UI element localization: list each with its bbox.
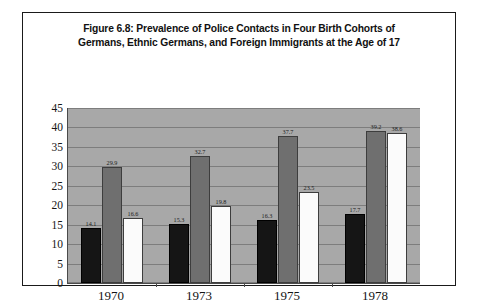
- x-axis-label-1978: 1978: [362, 288, 388, 303]
- bar-rect: [387, 133, 407, 283]
- y-axis-tick-15: 15: [33, 220, 63, 230]
- y-axis-tick-5: 5: [33, 259, 63, 269]
- x-tick-mark: [156, 283, 157, 287]
- figure-title-line-2: Germans, Ethnic Germans, and Foreign Imm…: [39, 36, 439, 50]
- y-axis-tick-35: 35: [33, 142, 63, 152]
- bar-1978-foreign[interactable]: 38.6: [387, 133, 407, 283]
- y-axis-tick-25: 25: [33, 181, 63, 191]
- y-axis-tick-45: 45: [33, 103, 63, 113]
- y-axis-tick-labels: 051015202530354045: [33, 108, 63, 283]
- x-axis-label-1970: 1970: [98, 288, 124, 303]
- bar-value-label: 39.2: [371, 123, 382, 130]
- x-tick-mark: [332, 283, 333, 287]
- x-tick-mark: [244, 283, 245, 287]
- chart-body: 051015202530354045 14.129.916.615.332.71…: [23, 56, 455, 285]
- y-axis-tick-20: 20: [33, 200, 63, 210]
- figure-title-line-1: Figure 6.8: Prevalence of Police Contact…: [39, 22, 439, 36]
- y-axis-tick-30: 30: [33, 161, 63, 171]
- figure-title: Figure 6.8: Prevalence of Police Contact…: [39, 22, 439, 49]
- bar-rect: [366, 131, 386, 283]
- bar-value-label: 17.7: [350, 206, 361, 213]
- bar-value-label: 38.6: [392, 125, 403, 132]
- bar-1978-ethnic-german[interactable]: 39.2: [366, 131, 386, 283]
- bar-rect: [345, 214, 365, 283]
- bar-1978-german[interactable]: 17.7: [345, 214, 365, 283]
- x-axis-category-labels: 1970197319751978: [67, 288, 419, 306]
- bar-group-1978: 17.739.238.6: [68, 108, 420, 283]
- figure-frame: Figure 6.8: Prevalence of Police Contact…: [22, 12, 456, 286]
- y-axis-tick-10: 10: [33, 239, 63, 249]
- x-axis-label-1973: 1973: [186, 288, 212, 303]
- y-axis-tick-0: 0: [33, 278, 63, 288]
- bars-layer: 14.129.916.615.332.719.816.337.723.517.7…: [68, 108, 420, 283]
- x-axis-label-1975: 1975: [274, 288, 300, 303]
- y-axis-tick-40: 40: [33, 122, 63, 132]
- plot-area: 14.129.916.615.332.719.816.337.723.517.7…: [67, 108, 420, 284]
